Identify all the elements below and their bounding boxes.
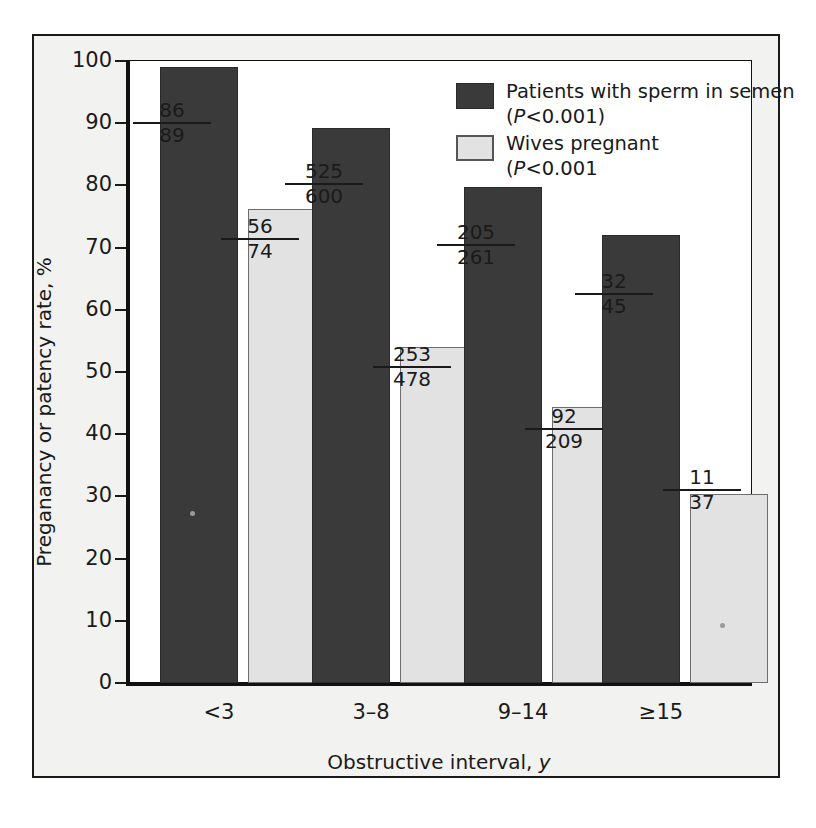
legend-pvalue-2: (P<0.001: [506, 157, 756, 182]
data-label-series1-cat1: 86 89: [133, 100, 211, 146]
data-label-series2-cat3: 92 209: [525, 406, 603, 452]
legend-pvalue-rest: <0.001: [525, 157, 597, 180]
legend-swatch-light-icon: [456, 135, 494, 161]
label-denominator: 261: [437, 246, 515, 268]
scan-speck: [720, 623, 725, 628]
label-numerator: 11: [663, 467, 741, 491]
data-label-series2-cat1: 56 74: [221, 216, 299, 262]
legend-label-1: Patients with sperm in semen: [506, 80, 756, 105]
y-tick-label-70: 70: [85, 235, 112, 259]
data-label-series2-cat2: 253 478: [373, 344, 451, 390]
x-axis-title-text: Obstructive interval,: [327, 750, 538, 774]
y-tick-mark: [115, 309, 126, 311]
data-label-series1-cat2: 525 600: [285, 161, 363, 207]
y-tick-label-20: 20: [85, 546, 112, 570]
data-label-series1-cat3: 205 261: [437, 222, 515, 268]
y-tick-mark: [115, 495, 126, 497]
label-numerator: 205: [437, 222, 515, 246]
legend-pvalue-symbol: P: [514, 105, 526, 128]
y-tick-label-60: 60: [85, 297, 112, 321]
x-tick-label-1: <3: [164, 700, 274, 724]
label-denominator: 600: [285, 185, 363, 207]
label-numerator: 56: [221, 216, 299, 240]
label-numerator: 253: [373, 344, 451, 368]
y-axis: Preganancy or patency rate, % 100 90 80 …: [0, 0, 126, 626]
y-tick-label-90: 90: [85, 110, 112, 134]
label-denominator: 45: [575, 295, 653, 317]
y-tick-mark: [115, 558, 126, 560]
label-numerator: 86: [133, 100, 211, 124]
data-label-series2-cat4: 11 37: [663, 467, 741, 513]
y-tick-mark: [115, 433, 126, 435]
label-denominator: 74: [221, 240, 299, 262]
y-tick-label-30: 30: [85, 483, 112, 507]
legend-pvalue-rest: <0.001): [525, 105, 605, 128]
y-tick-label-50: 50: [85, 359, 112, 383]
x-axis-title-unit: y: [539, 750, 551, 774]
x-tick-label-4: ≥15: [606, 700, 716, 724]
bar-series1-cat1[interactable]: [160, 67, 238, 683]
y-tick-mark: [115, 371, 126, 373]
y-tick-mark: [115, 60, 126, 62]
bar-series2-cat4[interactable]: [690, 494, 768, 683]
y-tick-mark: [115, 247, 126, 249]
y-tick-label-100: 100: [72, 48, 112, 72]
scan-speck: [190, 511, 195, 516]
label-denominator: 89: [133, 124, 211, 146]
legend-pvalue-symbol: P: [514, 157, 526, 180]
label-denominator: 37: [663, 491, 741, 513]
legend-item-1[interactable]: Patients with sperm in semen (P<0.001): [456, 80, 756, 130]
y-tick-mark: [115, 620, 126, 622]
y-tick-label-40: 40: [85, 421, 112, 445]
label-numerator: 32: [575, 271, 653, 295]
chart-legend: Patients with sperm in semen (P<0.001) W…: [456, 80, 756, 184]
y-tick-label-0: 0: [99, 670, 112, 694]
y-tick-mark: [115, 122, 126, 124]
bar-series1-cat2[interactable]: [312, 128, 390, 683]
x-tick-label-2: 3–8: [316, 700, 426, 724]
label-numerator: 525: [285, 161, 363, 185]
legend-pvalue-1: (P<0.001): [506, 105, 756, 130]
legend-swatch-dark-icon: [456, 83, 494, 109]
legend-pvalue-prefix: (: [506, 105, 514, 128]
y-tick-mark: [115, 184, 126, 186]
legend-item-2[interactable]: Wives pregnant (P<0.001: [456, 132, 756, 182]
y-tick-label-80: 80: [85, 172, 112, 196]
y-tick-label-10: 10: [85, 608, 112, 632]
y-axis-title: Preganancy or patency rate, %: [32, 152, 56, 672]
y-tick-mark: [115, 682, 126, 684]
data-label-series1-cat4: 32 45: [575, 271, 653, 317]
x-axis-title: Obstructive interval, y: [126, 750, 752, 774]
label-denominator: 209: [525, 430, 603, 452]
x-tick-label-3: 9–14: [468, 700, 578, 724]
label-denominator: 478: [373, 368, 451, 390]
label-numerator: 92: [525, 406, 603, 430]
legend-label-2: Wives pregnant: [506, 132, 756, 157]
legend-pvalue-prefix: (: [506, 157, 514, 180]
